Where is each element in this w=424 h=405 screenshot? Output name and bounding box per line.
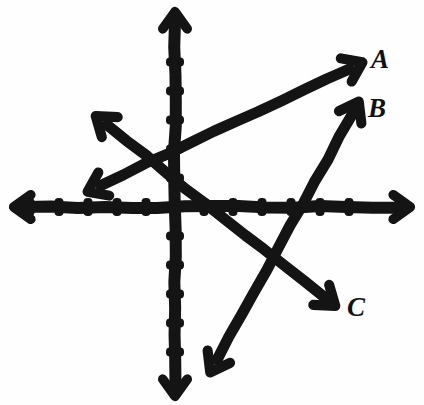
line-B [208,102,362,373]
x-axis-tick [84,198,93,216]
coordinate-plane-figure [0,0,424,405]
y-axis-tick [166,116,184,125]
y-axis-tick [166,232,184,241]
y-axis-tick [166,290,184,299]
line-label-a: A [371,46,389,73]
x-axis-tick [258,198,267,216]
x-axis-tick [55,198,64,216]
x-axis-tick [345,198,354,216]
x-axis-tick [113,198,122,216]
line-A-shaft [101,69,350,186]
y-axis-tick [166,348,184,357]
line-label-c: C [347,294,365,321]
x-axis-tick [229,198,238,216]
x-axis-tick [316,198,325,216]
line-label-b: B [368,95,386,122]
y-axis-tick [166,319,184,328]
y-axis-line [174,22,176,386]
x-axis-tick [142,198,151,216]
line-B-shaft [217,114,352,360]
y-axis-tick [166,261,184,270]
diagram-canvas: A B C [0,0,424,405]
y-axis-tick [166,58,184,67]
y-axis-tick [166,87,184,96]
